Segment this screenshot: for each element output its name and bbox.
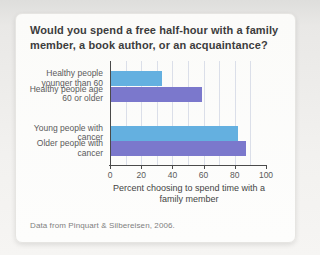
x-tick-label-60: 60 [192,170,216,180]
x-tick-mark-20 [141,166,142,169]
x-tick-mark-40 [172,166,173,169]
chart-title: Would you spend a free half-hour with a … [30,23,284,52]
bar-3 [111,141,246,156]
x-axis-title: Percent choosing to spend time with a fa… [104,183,274,204]
x-tick-label-100: 100 [254,170,278,180]
bar-2 [111,126,238,141]
x-tick-label-20: 20 [129,170,153,180]
source-caption: Data from Pinquart & Silbereisen, 2006. [30,221,175,230]
x-tick-mark-60 [204,166,205,169]
x-tick-label-80: 80 [223,170,247,180]
x-tick-label-40: 40 [160,170,184,180]
category-label-1: Healthy people age 60 or older [21,85,103,104]
x-tick-mark-80 [235,166,236,169]
x-tick-label-0: 0 [98,170,122,180]
category-label-3: Older people with cancer [21,139,103,158]
x-axis-line [109,165,267,166]
x-tick-mark-100 [266,166,267,169]
figure: Would you spend a free half-hour with a … [0,0,308,255]
plot-area [110,61,266,165]
x-tick-mark-0 [110,166,111,169]
bar-1 [111,87,202,102]
bar-0 [111,71,162,86]
